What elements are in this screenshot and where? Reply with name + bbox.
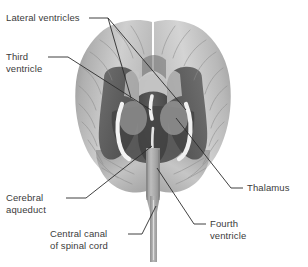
third-ventricle-highlight bbox=[151, 96, 153, 119]
label-cerebral-aqueduct-line2: aqueduct bbox=[6, 204, 46, 216]
label-thalamus: Thalamus bbox=[247, 182, 290, 194]
label-central-canal-line2: of spinal cord bbox=[50, 240, 108, 252]
label-lateral-ventricles: Lateral ventricles bbox=[6, 12, 80, 24]
right-thalamus bbox=[160, 101, 188, 135]
label-third-ventricle-line2: ventricle bbox=[6, 63, 42, 75]
label-cerebral-aqueduct-line1: Cerebral bbox=[6, 192, 43, 204]
label-fourth-ventricle-line2: ventricle bbox=[210, 230, 246, 242]
label-third-ventricle-line1: Third bbox=[6, 51, 28, 63]
label-central-canal-line1: Central canal bbox=[50, 228, 107, 240]
anatomical-figure: Lateral ventricles Third ventricle Cereb… bbox=[0, 0, 308, 267]
copyright-notice: © Cengage Learning 2009 bbox=[307, 43, 308, 128]
brainstem-spinal-cord-group bbox=[146, 148, 160, 262]
brain-illustration bbox=[0, 0, 308, 267]
label-fourth-ventricle-line1: Fourth bbox=[210, 218, 238, 230]
